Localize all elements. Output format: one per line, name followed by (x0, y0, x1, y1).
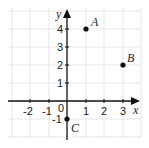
x-tick-label: 2 (101, 105, 107, 117)
x-tick-label: -2 (23, 105, 33, 117)
x-tick-label: 1 (83, 105, 89, 117)
y-tick-label: 2 (57, 59, 63, 71)
data-points: A B C (64, 15, 135, 135)
point-b (120, 62, 125, 67)
y-axis-label: y (55, 7, 62, 21)
point-b-label: B (127, 51, 135, 65)
x-tick-label: -1 (42, 105, 52, 117)
y-tick-label: 4 (57, 23, 63, 35)
point-c-label: C (71, 121, 80, 135)
y-tick-label: 3 (57, 41, 63, 53)
x-axis-label: x (132, 103, 139, 117)
coordinate-plane: x y -2 -1 0 1 2 3 -1 1 2 3 4 A B (0, 0, 149, 148)
grid (8, 8, 141, 138)
x-tick-label: 3 (120, 105, 126, 117)
point-c (64, 116, 69, 121)
x-tick-labels: -2 -1 0 1 2 3 (23, 102, 126, 117)
y-tick-label: -1 (52, 113, 62, 125)
y-tick-label: 1 (57, 77, 63, 89)
y-axis-arrow-icon (63, 9, 71, 18)
point-a-label: A (90, 15, 99, 29)
point-a (83, 26, 88, 31)
